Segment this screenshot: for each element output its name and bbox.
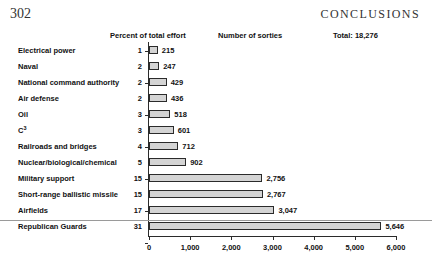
category-label: Oil [18,110,28,119]
page-number: 302 [10,6,31,22]
chart-row: Electrical power1215 [0,43,432,59]
bar-value-label: 2,756 [266,174,285,183]
bar [149,206,274,214]
percent-value: 15 [106,190,142,199]
column-header-sorties: Number of sorties [218,31,282,40]
bar-value-label: 2,767 [267,190,286,199]
percent-value: 4 [106,142,142,151]
chart-row: National command authority2429 [0,75,432,91]
value-axis-tick-label: 1,000 [181,243,200,252]
bar-value-label: 601 [178,126,191,135]
bar-value-label: 712 [182,142,195,151]
bar [149,222,381,230]
bar [149,110,170,118]
value-axis-tick-label: 3,000 [263,243,282,252]
chart-row: Short-range ballistic missile152,767 [0,187,432,203]
percent-value: 3 [106,126,142,135]
chart-row: Oil3518 [0,107,432,123]
category-label: Military support [18,174,74,183]
category-label: National command authority [18,78,119,87]
value-axis-tick [355,236,356,240]
category-label: Republican Guards [18,222,87,231]
value-axis-tick [190,236,191,240]
percent-value: 17 [106,206,142,215]
value-axis-tick [314,236,315,240]
percent-value: 3 [106,110,142,119]
value-axis-tick-label: 2,000 [222,243,241,252]
value-axis-tick-label: 5,000 [345,243,364,252]
chart-row: Airfields173,047 [0,203,432,219]
category-label: Air defense [18,94,59,103]
bar [149,62,159,70]
column-header-percent: Percent of total effort [110,31,186,40]
chart-row: Nuclear/biological/chemical5902 [0,155,432,171]
percent-value: 2 [106,94,142,103]
percent-value: 2 [106,78,142,87]
bar-value-label: 518 [174,110,187,119]
bar-value-label: 215 [162,46,175,55]
percent-value: 15 [106,174,142,183]
value-axis-tick-label: 0 [147,243,151,252]
chart-row: Military support152,756 [0,171,432,187]
chart-row: Air defense2436 [0,91,432,107]
percent-value: 2 [106,62,142,71]
bar [149,174,262,182]
bar [149,94,167,102]
category-label: Short-range ballistic missile [18,190,118,199]
chart-row: Railroads and bridges4712 [0,139,432,155]
chart-row: Republican Guards315,646 [0,219,432,235]
value-axis-tick-label: 4,000 [304,243,323,252]
percent-value: 31 [106,222,142,231]
bar-value-label: 436 [171,94,184,103]
category-tick [145,51,148,52]
value-axis-tick-label: 6,000 [387,243,406,252]
category-label: Railroads and bridges [18,142,97,151]
value-axis-tick [396,236,397,240]
section-separator-rule [0,220,432,221]
percent-value: 1 [106,46,142,55]
bar-value-label: 902 [190,158,203,167]
bar-value-label: 429 [171,78,184,87]
bar [149,190,263,198]
page-running-head: 302 CONCLUSIONS [0,6,432,22]
percent-value: 5 [106,158,142,167]
bar-value-label: 5,646 [385,222,404,231]
category-label: C3 [18,126,26,135]
bar [149,126,174,134]
running-head-title: CONCLUSIONS [321,7,420,22]
value-axis-tick [231,236,232,240]
bar [149,142,178,150]
bar [149,78,167,86]
chart-row: C33601 [0,123,432,139]
chart-row: Naval2247 [0,59,432,75]
sorties-bar-chart: Electrical power1215Naval2247National co… [0,42,432,242]
category-label: Nuclear/biological/chemical [18,158,117,167]
category-label: Airfields [18,206,48,215]
category-label: Naval [18,62,38,71]
value-axis-tick [149,236,150,240]
total-sorties-label: Total: 18,276 [333,31,378,40]
bar-value-label: 247 [163,62,176,71]
bar [149,46,158,54]
value-axis-tick [273,236,274,240]
bar-value-label: 3,047 [278,206,297,215]
bar [149,158,186,166]
category-label: Electrical power [18,46,76,55]
